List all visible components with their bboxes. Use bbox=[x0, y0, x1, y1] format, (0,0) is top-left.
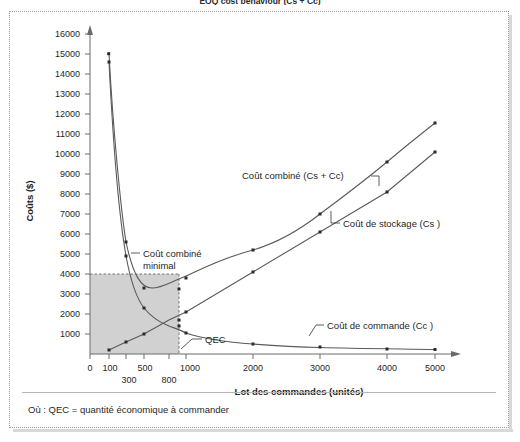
x-tick-label: 4000 bbox=[377, 363, 397, 373]
data-point bbox=[252, 271, 255, 274]
data-point bbox=[434, 122, 437, 125]
x-tick-label: 300 bbox=[121, 375, 136, 385]
frame-shadow-right bbox=[509, 15, 512, 432]
data-point bbox=[143, 287, 146, 290]
y-tick-label: 3000 bbox=[60, 289, 80, 299]
data-point bbox=[107, 52, 110, 55]
x-tick-label: 0 bbox=[87, 363, 92, 373]
y-tick-label: 16000 bbox=[55, 29, 80, 39]
series-label-combined: Coût combiné (Cs + Cc) bbox=[242, 170, 344, 181]
data-point bbox=[125, 341, 128, 344]
y-tick-label: 12000 bbox=[55, 109, 80, 119]
data-point bbox=[319, 231, 322, 234]
x-tick-label: 3000 bbox=[310, 363, 330, 373]
series-label-ordering: Coût de commande (Cc ) bbox=[327, 320, 433, 331]
data-point bbox=[178, 288, 181, 291]
data-point bbox=[386, 161, 389, 164]
data-point bbox=[434, 151, 437, 154]
figure-page: EOQ cost behaviour (Cs + Cc) bbox=[0, 0, 520, 442]
data-point bbox=[125, 241, 128, 244]
annotation-line-2: minimal bbox=[143, 260, 176, 271]
x-tick-label: 500 bbox=[137, 363, 152, 373]
data-point bbox=[386, 191, 389, 194]
annotation-line-1: Coût combiné bbox=[143, 248, 202, 259]
label-combined-cost: Coût combiné (Cs + Cc) bbox=[242, 170, 379, 186]
eoq-annotation: QEC bbox=[181, 334, 226, 349]
y-tick-label: 10000 bbox=[55, 149, 80, 159]
eoq-chart: 1000 2000 3000 4000 5000 6000 7000 8000 … bbox=[9, 11, 509, 428]
label-ordering-cost: Coût de commande (Cc ) bbox=[309, 320, 433, 336]
y-tick-label: 7000 bbox=[60, 209, 80, 219]
x-tick-label: 1000 bbox=[180, 363, 200, 373]
data-point bbox=[252, 343, 255, 346]
data-point bbox=[178, 319, 181, 322]
series-label-storage: Coût de stockage (Cs ) bbox=[343, 218, 440, 229]
x-axis-arrow bbox=[451, 351, 461, 357]
y-tick-label: 6000 bbox=[60, 229, 80, 239]
y-axis-tick-labels: 1000 2000 3000 4000 5000 6000 7000 8000 … bbox=[55, 29, 80, 339]
data-point bbox=[143, 333, 146, 336]
x-axis: 0 100 300 500 800 1000 2000 3000 4000 50… bbox=[87, 351, 461, 397]
frame-shadow-bottom bbox=[13, 429, 513, 432]
y-tick-label: 8000 bbox=[60, 189, 80, 199]
annotation-eoq-label: QEC bbox=[205, 334, 226, 345]
y-tick-label: 1000 bbox=[60, 329, 80, 339]
data-point bbox=[125, 255, 128, 258]
footnote-divider bbox=[22, 392, 496, 393]
eoq-shaded-region bbox=[90, 274, 179, 354]
x-tick-label: 800 bbox=[161, 375, 176, 385]
y-tick-label: 4000 bbox=[60, 269, 80, 279]
data-point bbox=[252, 249, 255, 252]
x-tick-label: 2000 bbox=[243, 363, 263, 373]
data-point bbox=[386, 348, 389, 351]
y-tick-label: 11000 bbox=[56, 129, 80, 139]
y-tick-label: 2000 bbox=[60, 309, 80, 319]
data-point bbox=[185, 311, 188, 314]
data-point bbox=[185, 332, 188, 335]
data-point bbox=[108, 349, 111, 352]
data-point bbox=[108, 61, 111, 64]
y-tick-label: 9000 bbox=[60, 169, 80, 179]
label-storage-cost: Coût de stockage (Cs ) bbox=[331, 211, 440, 229]
data-point bbox=[178, 325, 181, 328]
y-tick-label: 15000 bbox=[55, 49, 80, 59]
x-tick-label: 5000 bbox=[425, 363, 445, 373]
y-axis-ticks bbox=[85, 34, 90, 334]
figure-footnote: Où : QEC = quantité économique à command… bbox=[28, 404, 229, 415]
x-axis-tick-labels: 0 100 300 500 800 1000 2000 3000 4000 50… bbox=[87, 363, 445, 385]
data-point bbox=[143, 307, 146, 310]
data-point bbox=[434, 348, 437, 351]
data-point bbox=[185, 277, 188, 280]
data-point bbox=[319, 346, 322, 349]
y-tick-label: 13000 bbox=[55, 89, 80, 99]
x-tick-label: 100 bbox=[102, 363, 117, 373]
figure-top-caption: EOQ cost behaviour (Cs + Cc) bbox=[0, 0, 520, 5]
y-tick-label: 14000 bbox=[55, 69, 80, 79]
y-axis: 1000 2000 3000 4000 5000 6000 7000 8000 … bbox=[24, 25, 93, 354]
minimum-combined-cost-annotation: Coût combiné minimal bbox=[131, 248, 202, 271]
y-axis-title: Coûts ($) bbox=[24, 180, 35, 221]
data-point bbox=[319, 213, 322, 216]
y-tick-label: 5000 bbox=[60, 249, 80, 259]
x-axis-ticks bbox=[90, 354, 435, 359]
